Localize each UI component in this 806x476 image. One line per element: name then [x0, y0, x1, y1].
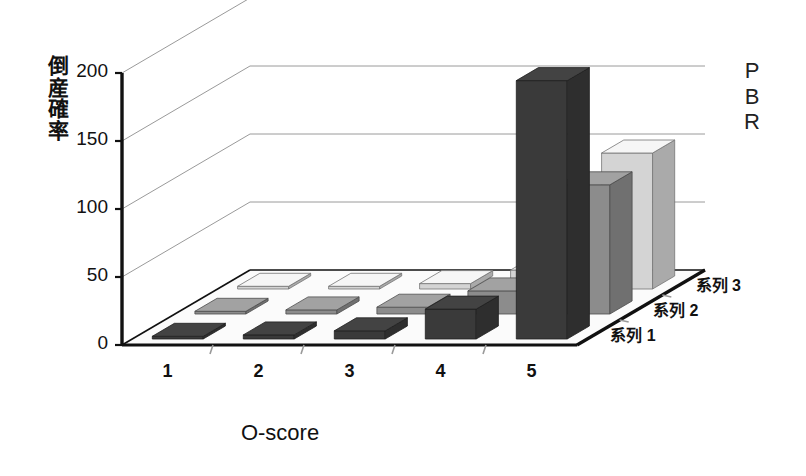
chart-shape — [238, 286, 289, 289]
x-axis-tick-label: 4 — [413, 361, 469, 382]
chart-shape — [152, 336, 203, 339]
chart-shape — [195, 311, 246, 314]
chart-line — [122, 0, 250, 73]
series-label-1: 系列 1 — [610, 322, 655, 346]
chart-line — [122, 134, 250, 209]
x-axis-tick-label: 2 — [231, 361, 287, 382]
chart-canvas: 倒 産 確 率 P B R O-score 050100150200 12345… — [0, 0, 806, 476]
chart-shape — [425, 309, 476, 339]
series-label-2: 系列 2 — [653, 297, 698, 321]
chart-shape — [420, 284, 471, 289]
bar-chart-3d — [0, 0, 806, 476]
chart-shape — [567, 68, 589, 339]
chart-line — [122, 202, 250, 277]
series-label-3: 系列 3 — [696, 272, 741, 296]
chart-shape — [610, 172, 632, 314]
chart-line — [122, 66, 250, 141]
chart-shape — [286, 310, 337, 314]
x-axis-tick-label: 1 — [140, 361, 196, 382]
chart-shape — [243, 335, 294, 339]
chart-shape — [516, 81, 567, 339]
chart-shape — [329, 286, 380, 289]
x-axis-tick-label: 3 — [322, 361, 378, 382]
chart-shape — [377, 307, 428, 314]
x-axis-tick-label: 5 — [504, 361, 560, 382]
chart-shape — [653, 140, 675, 289]
chart-shape — [334, 331, 385, 339]
